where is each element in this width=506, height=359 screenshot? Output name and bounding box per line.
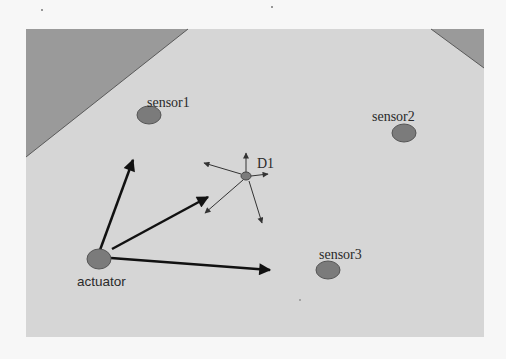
sensor3-marker bbox=[316, 261, 340, 279]
scan-speck bbox=[271, 6, 273, 8]
network-diagram: sensor1 sensor2 sensor3 actuator D1 bbox=[0, 0, 506, 359]
sensor2-marker bbox=[392, 124, 416, 142]
scan-speck bbox=[41, 9, 43, 11]
scan-speck bbox=[299, 299, 301, 301]
sensor2-label: sensor2 bbox=[372, 109, 415, 124]
sensor1-label: sensor1 bbox=[147, 95, 190, 110]
actuator-label: actuator bbox=[77, 274, 126, 289]
actuator-marker bbox=[87, 249, 111, 269]
d1-label: D1 bbox=[257, 156, 274, 171]
d1-marker bbox=[241, 172, 251, 180]
sensor3-label: sensor3 bbox=[319, 247, 362, 262]
